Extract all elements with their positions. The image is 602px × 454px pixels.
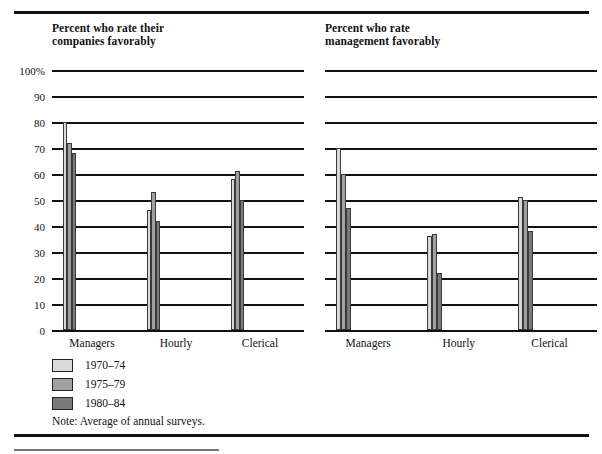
bottom-rule (14, 434, 589, 437)
legend: 1970–741975–791980–84 (52, 357, 312, 414)
panel-title-companies: Percent who rate their companies favorab… (52, 22, 164, 48)
category-label-clerical: Clerical (231, 337, 290, 350)
bar-hourly-1980-84 (156, 221, 161, 330)
legend-swatch-icon (52, 359, 73, 372)
y-axis-tick-label: 100% (19, 66, 45, 77)
y-axis-tick-label: 40 (34, 222, 45, 233)
bar-clerical-1980-84 (240, 200, 245, 330)
legend-label: 1980–84 (85, 397, 125, 410)
panel-title-management: Percent who rate management favorably (325, 22, 440, 48)
chart-panel-management: Percent who rate management favorably Ma… (305, 22, 595, 352)
y-axis-tick-label: 10 (34, 300, 45, 311)
bar-group-clerical: Clerical (518, 70, 581, 330)
legend-item-1980-84: 1980–84 (52, 395, 312, 412)
y-axis-tick-label: 60 (34, 170, 45, 181)
category-label-clerical: Clerical (518, 337, 581, 350)
bar-hourly-1980-84 (437, 273, 442, 330)
category-label-hourly: Hourly (427, 337, 490, 350)
bar-groups-management: ManagersHourlyClerical (325, 70, 597, 330)
y-axis-tick-label: 30 (34, 248, 45, 259)
bar-group-hourly: Hourly (147, 70, 206, 330)
charts-container: Percent who rate their companies favorab… (0, 22, 602, 352)
legend-label: 1970–74 (85, 359, 125, 372)
bar-groups-companies: ManagersHourlyClerical (52, 70, 304, 330)
bar-clerical-1980-84 (528, 231, 533, 330)
plot-area-management: ManagersHourlyClerical (325, 70, 597, 330)
category-label-managers: Managers (63, 337, 122, 350)
y-axis-tick-label: 90 (34, 92, 45, 103)
legend-swatch-icon (52, 378, 73, 391)
legend-label: 1975–79 (85, 378, 125, 391)
y-axis-tick-label: 70 (34, 144, 45, 155)
top-rule (14, 11, 589, 14)
bar-group-hourly: Hourly (427, 70, 490, 330)
bar-managers-1980-84 (72, 153, 77, 330)
gridline-0 (325, 330, 597, 332)
chart-note: Note: Average of annual surveys. (52, 415, 205, 428)
legend-swatch-icon (52, 397, 73, 410)
category-label-managers: Managers (336, 337, 399, 350)
legend-item-1975-79: 1975–79 (52, 376, 312, 393)
bar-group-clerical: Clerical (231, 70, 290, 330)
plot-area-companies: 100%9080706050403020100 ManagersHourlyCl… (52, 70, 304, 330)
y-axis-tick-label: 20 (34, 274, 45, 285)
bar-group-managers: Managers (63, 70, 122, 330)
legend-item-1970-74: 1970–74 (52, 357, 312, 374)
category-label-hourly: Hourly (147, 337, 206, 350)
chart-panel-companies: Percent who rate their companies favorab… (10, 22, 310, 352)
bar-group-managers: Managers (336, 70, 399, 330)
bar-managers-1980-84 (346, 208, 351, 330)
y-axis-tick-label: 0 (40, 326, 46, 337)
footer-stub-rule (14, 449, 219, 451)
y-axis-tick-label: 50 (34, 196, 45, 207)
gridline-0: 0 (52, 330, 304, 332)
y-axis-tick-label: 80 (34, 118, 45, 129)
